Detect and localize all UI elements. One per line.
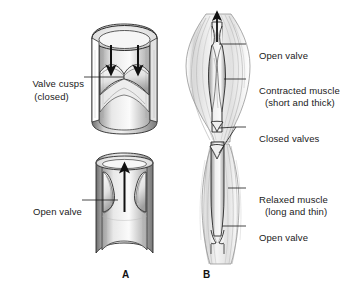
label-valve-cusps-line2: (closed) (34, 91, 69, 102)
label-relaxed-muscle-line2: (long and thin) (265, 206, 327, 217)
panel-b-muscle-vein (186, 14, 250, 264)
label-open-valve-left-text: Open valve (33, 206, 82, 217)
label-valve-cusps-closed: (closed) (8, 79, 84, 114)
panel-letter-a: A (122, 269, 129, 280)
panel-a-closed-valve-vessel (84, 24, 157, 134)
label-closed-valves: Closed valves (248, 121, 319, 156)
label-open-valve-top-right: Open valve (248, 38, 308, 73)
label-closed-valves-text: Closed valves (259, 133, 319, 144)
label-open-valve-bottom-right-text: Open valve (259, 232, 308, 243)
label-open-valve-bottom-right: Open valve (248, 220, 308, 255)
label-contracted-muscle-line2: (short and thick) (265, 97, 335, 108)
label-open-valve-top-right-text: Open valve (259, 50, 308, 61)
panel-letter-b: B (203, 269, 210, 280)
label-open-valve-left: Open valve (6, 194, 82, 229)
venous-valve-figure: Valve cusps (closed) Open valve Open val… (0, 0, 353, 292)
panel-a-open-valve-vessel (82, 153, 153, 253)
panel-letter-a-text: A (122, 269, 129, 280)
panel-letter-b-text: B (203, 269, 210, 280)
label-contracted-muscle-sub: (short and thick) (254, 85, 335, 120)
